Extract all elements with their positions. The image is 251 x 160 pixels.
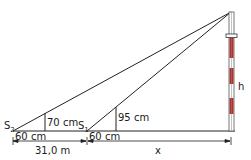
mast-height-diagram: S2 S1 70 cm 95 cm 60 cm 60 cm 31,0 m x h <box>0 0 251 160</box>
label-offset2: 60 cm <box>15 131 46 142</box>
label-stick2-height: 70 cm <box>47 117 78 128</box>
label-s1: S1 <box>78 120 89 134</box>
label-distance: 31,0 m <box>35 145 70 156</box>
label-mast-height: h <box>238 81 244 92</box>
mast-collar <box>226 34 237 38</box>
label-unknown-distance: x <box>155 145 161 156</box>
label-offset1: 60 cm <box>89 131 120 142</box>
label-s2: S2 <box>4 120 15 134</box>
mast <box>226 12 237 131</box>
label-stick1-height: 95 cm <box>118 112 149 123</box>
sight-line-s1 <box>87 12 231 131</box>
